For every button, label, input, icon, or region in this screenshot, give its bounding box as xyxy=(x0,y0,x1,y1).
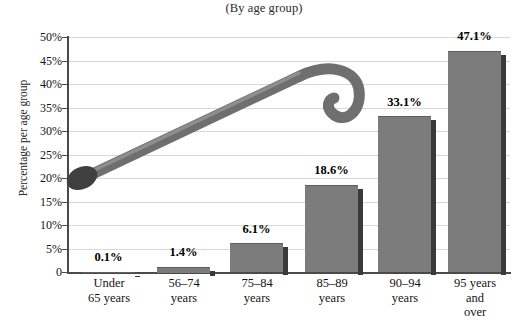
y-tick-label-35: 35% xyxy=(22,102,62,114)
bar-value-75-84: 6.1% xyxy=(230,222,283,237)
y-tick-label-5: 5% xyxy=(22,243,62,255)
y-tick-label-0: 0 xyxy=(22,266,62,278)
x-label-56-74: 56–74 years xyxy=(147,276,221,305)
bar-90-94[interactable] xyxy=(378,116,431,272)
y-tick-label-15: 15% xyxy=(22,196,62,208)
bar-value-85-89: 18.6% xyxy=(305,163,358,178)
y-tick-label-30: 30% xyxy=(22,125,62,137)
bar-value-56-74: 1.4% xyxy=(157,245,210,260)
bar-value-under-65: 0.1% xyxy=(82,250,135,265)
bar-under-65[interactable] xyxy=(82,272,135,274)
x-label-85-89: 85–89 years xyxy=(295,276,369,305)
y-tick-label-10: 10% xyxy=(22,219,62,231)
y-tick-label-20: 20% xyxy=(22,172,62,184)
x-label-90-94: 90–94 years xyxy=(368,276,442,305)
bar-side-shade xyxy=(283,247,288,275)
bar-75-84[interactable] xyxy=(230,243,283,272)
bar-95-over[interactable] xyxy=(448,51,501,272)
bar-side-shade xyxy=(358,189,363,275)
y-tick-label-45: 45% xyxy=(22,55,62,67)
x-label-95-over: 95 years and over xyxy=(438,276,512,320)
bar-56-74[interactable] xyxy=(157,267,210,274)
bar-side-shade xyxy=(501,55,506,275)
bar-value-95-over: 47.1% xyxy=(448,29,501,44)
x-label-under-65: Under 65 years xyxy=(72,276,146,305)
x-label-75-84: 75–84 years xyxy=(220,276,294,305)
y-tick-label-40: 40% xyxy=(22,78,62,90)
bar-85-89[interactable] xyxy=(305,185,358,272)
bar-side-shade xyxy=(431,120,436,275)
y-tick-label-25: 25% xyxy=(22,149,62,161)
bar-value-90-94: 33.1% xyxy=(378,95,431,110)
y-tick-label-50: 50% xyxy=(22,31,62,43)
